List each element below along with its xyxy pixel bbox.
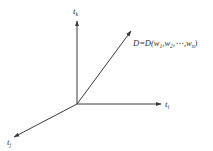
axis-tj-line bbox=[14, 104, 77, 137]
vector-d-line bbox=[77, 31, 131, 104]
vector-d-label: D=D(w1,w2,⋯,wn) bbox=[132, 38, 197, 49]
axis-tk-label: tk bbox=[73, 6, 79, 17]
axis-ti-label: ti bbox=[165, 99, 170, 110]
axis-tj-label: tj bbox=[7, 137, 12, 148]
vector-space-diagram: tk ti tj D=D(w1,w2,⋯,wn) bbox=[0, 0, 213, 151]
